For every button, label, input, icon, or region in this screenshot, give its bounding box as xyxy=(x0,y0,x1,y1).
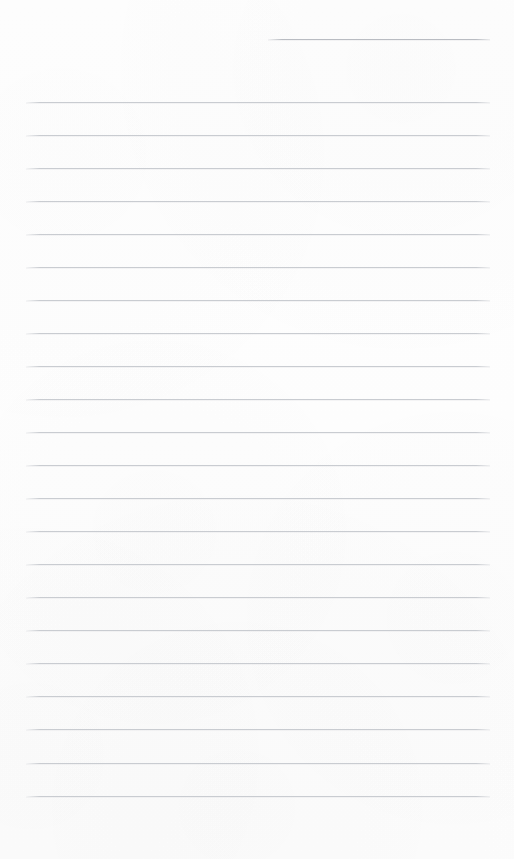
rule-line xyxy=(26,366,490,367)
rule-line xyxy=(26,267,490,268)
rule-line xyxy=(26,399,490,400)
rule-line xyxy=(26,763,490,764)
writing-row[interactable] xyxy=(26,71,490,101)
rule-line xyxy=(26,630,490,631)
footer-blank-space xyxy=(0,797,514,859)
writing-row[interactable] xyxy=(26,434,490,464)
rule-line xyxy=(26,168,490,169)
rule-line xyxy=(26,729,490,730)
writing-row[interactable] xyxy=(26,665,490,695)
rule-line xyxy=(26,531,490,532)
writing-row[interactable] xyxy=(26,500,490,530)
rule-line xyxy=(26,135,490,136)
rule-line xyxy=(26,201,490,202)
rule-line xyxy=(26,564,490,565)
writing-row[interactable] xyxy=(26,236,490,266)
writing-row[interactable] xyxy=(26,566,490,596)
rule-line xyxy=(26,432,490,433)
writing-row[interactable] xyxy=(26,599,490,629)
writing-row[interactable] xyxy=(26,401,490,431)
rule-line xyxy=(26,234,490,235)
notepaper-page xyxy=(0,0,514,859)
rule-line xyxy=(26,465,490,466)
writing-row[interactable] xyxy=(26,302,490,332)
writing-row[interactable] xyxy=(26,467,490,497)
rule-line xyxy=(26,696,490,697)
paper-sheet xyxy=(0,0,514,859)
writing-row[interactable] xyxy=(26,698,490,728)
writing-row[interactable] xyxy=(26,732,490,762)
rule-line xyxy=(26,333,490,334)
writing-row[interactable] xyxy=(26,104,490,134)
writing-row[interactable] xyxy=(26,632,490,662)
writing-row[interactable] xyxy=(26,170,490,200)
rule-line xyxy=(26,498,490,499)
rule-line xyxy=(26,300,490,301)
writing-row[interactable] xyxy=(26,368,490,398)
writing-row[interactable] xyxy=(26,335,490,365)
rule-line xyxy=(26,597,490,598)
writing-row[interactable] xyxy=(26,269,490,299)
rule-line xyxy=(26,663,490,664)
writing-row[interactable] xyxy=(26,203,490,233)
writing-row[interactable] xyxy=(26,765,490,795)
writing-row[interactable] xyxy=(26,137,490,167)
rule-line xyxy=(26,102,490,103)
writing-row[interactable] xyxy=(26,533,490,563)
header-rule-line xyxy=(268,39,490,40)
